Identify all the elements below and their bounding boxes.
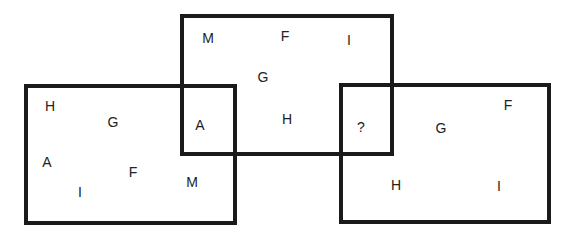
letter-label: G [436, 121, 447, 135]
letter-label: M [186, 175, 198, 189]
letter-label: A [42, 155, 51, 169]
letter-label: G [258, 70, 269, 84]
letter-label: H [391, 178, 401, 192]
rectangle-right [339, 83, 551, 224]
letter-label: F [504, 98, 513, 112]
letter-label: H [282, 112, 292, 126]
letter-label: G [108, 115, 119, 129]
letter-label: I [497, 179, 501, 193]
letter-label: I [347, 33, 351, 47]
letter-label: F [281, 29, 290, 43]
letter-label: M [202, 31, 214, 45]
letter-label: H [45, 99, 55, 113]
unknown-letter: ? [357, 120, 365, 134]
letter-label: F [129, 165, 138, 179]
letter-label: I [78, 185, 82, 199]
letter-label: A [195, 118, 204, 132]
